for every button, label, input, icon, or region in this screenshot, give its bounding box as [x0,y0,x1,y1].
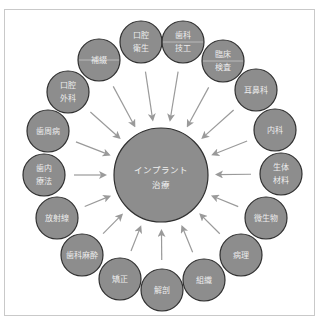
node-label: 臨床 [215,49,231,59]
arrow-jibika [203,110,234,138]
node-rinsho-kensa: 臨床検査 [202,40,244,82]
node-label: 歯科 [175,30,191,40]
arrow-shishubyo [76,142,109,155]
node-label: 解剖 [154,285,170,295]
node-label: 口腔 [133,30,149,40]
node-circle [47,71,89,113]
arrow-naika [213,141,247,154]
node-label: 歯内 [36,163,52,173]
arrow-biseibutsu [213,196,238,206]
node-label: 口腔 [60,80,76,90]
node-naika: 内科 [254,109,296,151]
node-jibika: 耳鼻科 [235,69,277,111]
node-label: 微生物 [254,213,278,223]
arrow-kyosei [131,227,140,251]
arrow-koku-geka [90,112,119,138]
node-hotetsu: 補綴 [78,39,120,81]
node-hoshasen: 放射線 [36,197,78,239]
node-label: 病理 [233,250,249,260]
center-node-implant-treatment: インプラント治療 [114,128,208,222]
node-shinai-ryoho: 歯内療法 [23,154,65,196]
node-shika-giko: 歯科技工 [162,21,204,63]
implant-diagram: インプラント治療 補綴口腔衛生歯科技工臨床検査耳鼻科内科生体材料微生物病理組織解… [0,0,322,325]
arrow-byori [201,215,220,234]
node-label: 内科 [267,125,283,135]
node-label: 療法 [36,176,52,186]
node-circle [120,21,162,63]
node-label: 歯周病 [36,126,60,136]
arrow-koku-eisei [145,72,152,120]
node-label: 技工 [175,43,191,53]
node-label: 耳鼻科 [244,85,268,95]
node-koku-geka: 口腔外科 [47,71,89,113]
node-circle [260,153,302,195]
node-shika-masui: 歯科麻酔 [61,234,103,276]
node-koku-eisei: 口腔衛生 [120,21,162,63]
arrow-hotetsu [113,86,134,125]
arrow-shika-giko [170,72,178,120]
node-shishubyo: 歯周病 [27,110,69,152]
center-label-line: インプラント [134,165,188,175]
node-label: 材料 [273,175,289,185]
center-circle [114,128,208,222]
node-byori: 病理 [220,234,262,276]
node-label: 検査 [215,62,231,72]
node-label: 生体 [273,162,289,172]
node-label: 矯正 [112,274,128,284]
node-kyosei: 矯正 [99,258,141,300]
node-soshiki: 組織 [183,259,225,301]
arrow-soshiki [182,227,192,252]
node-kaibo: 解剖 [141,269,183,311]
arrow-shika-masui [103,215,122,234]
node-label: 衛生 [133,43,149,53]
node-label: 組織 [196,275,212,285]
node-label: 補綴 [91,55,107,65]
node-label: 外科 [60,93,76,103]
node-seitai-zairyo: 生体材料 [260,153,302,195]
arrow-hoshasen [85,196,110,206]
node-label: 歯科麻酔 [66,250,98,260]
center-label-line: 治療 [152,180,170,190]
node-label: 放射線 [45,213,69,223]
node-circle [23,154,65,196]
arrow-rinsho-kensa [188,87,209,125]
node-biseibutsu: 微生物 [245,197,287,239]
